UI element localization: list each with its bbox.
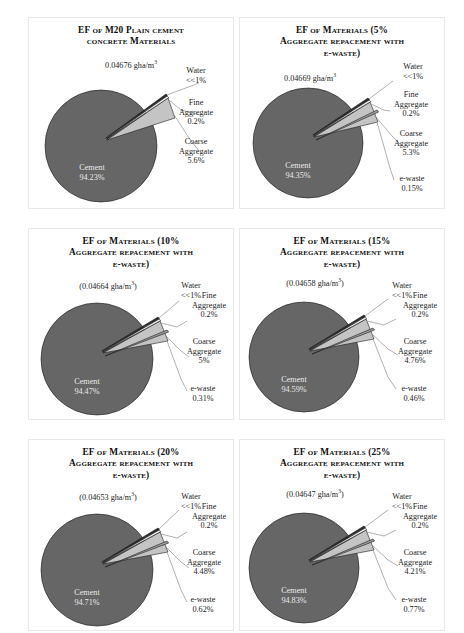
leader-line-water — [365, 510, 388, 527]
pie-slice-cement — [253, 88, 363, 198]
label-coarse-name2: Aggregate — [179, 147, 213, 156]
label-fine-aggregate: Fine Aggregate 0.2% — [382, 90, 440, 119]
leader-line-fine — [367, 530, 396, 536]
label-coarse-aggregate: Coarse Aggregate 5.6% — [165, 137, 227, 166]
label-ewaste: e-waste 0.15% — [382, 174, 442, 193]
label-fine-name2: Aggregate — [192, 301, 226, 310]
label-ewaste-name: e-waste — [190, 384, 215, 393]
pie-label-cement-name: Cement — [281, 375, 307, 384]
label-coarse-value: 4.48% — [193, 567, 214, 576]
label-fine-aggregate: Fine Aggregate 0.2% — [185, 502, 233, 531]
label-fine-value: 0.2% — [402, 109, 419, 118]
label-coarse-name2: Aggregate — [187, 558, 221, 567]
label-coarse-name2: Aggregate — [394, 139, 428, 148]
label-coarse-name: Coarse — [404, 548, 427, 557]
pie-label-cement-value: 94.23% — [79, 173, 104, 182]
leader-line-water — [365, 299, 388, 316]
label-coarse-aggregate: Coarse Aggregate 5% — [175, 337, 233, 366]
label-fine-value: 0.2% — [411, 521, 428, 530]
label-water: Water <<1% — [171, 66, 221, 85]
leader-line-water — [159, 510, 179, 529]
label-coarse-name2: Aggregate — [398, 347, 432, 356]
label-fine-name: Fine — [202, 502, 217, 511]
label-coarse-name: Coarse — [193, 548, 216, 557]
pie-slice-cement — [249, 513, 359, 623]
pie-slice-cement — [41, 514, 153, 626]
leader-line-fine — [161, 321, 187, 327]
label-fine-name2: Aggregate — [192, 512, 226, 521]
label-fine-value: 0.2% — [411, 310, 428, 319]
label-coarse-value: 5.3% — [402, 148, 419, 157]
pie-slice-cement — [41, 303, 153, 415]
pie-slice-cement — [249, 302, 359, 412]
label-water-name: Water — [186, 66, 205, 75]
label-water: Water <<1% — [388, 62, 438, 81]
label-water-value: <<1% — [403, 72, 423, 81]
pie-label-cement-name: Cement — [79, 163, 105, 172]
label-coarse-name: Coarse — [400, 129, 423, 138]
figure-panel-grid: EF of M20 Plain cement concrete Material… — [28, 17, 440, 627]
label-coarse-name: Coarse — [404, 337, 427, 346]
label-water-value: <<1% — [186, 76, 206, 85]
label-water-name: Water — [403, 62, 422, 71]
pie-label-cement-name: Cement — [74, 588, 100, 597]
label-fine-aggregate: Fine Aggregate 0.2% — [185, 291, 233, 320]
label-ewaste: e-waste 0.31% — [175, 384, 231, 403]
label-fine-value: 0.2% — [187, 117, 204, 126]
label-water-name: Water — [392, 281, 411, 290]
label-coarse-aggregate: Coarse Aggregate 5.3% — [380, 129, 442, 158]
label-fine-value: 0.2% — [200, 310, 217, 319]
pie-label-cement-value: 94.47% — [74, 387, 99, 396]
label-fine-name2: Aggregate — [179, 108, 213, 117]
label-coarse-aggregate: Coarse Aggregate 4.76% — [386, 337, 444, 366]
label-coarse-name: Coarse — [193, 337, 216, 346]
label-ewaste-value: 0.46% — [403, 394, 424, 403]
label-fine-name: Fine — [189, 98, 204, 107]
label-water-name: Water — [181, 492, 200, 501]
pie-label-cement-value: 94.35% — [285, 171, 310, 180]
label-coarse-aggregate: Coarse Aggregate 4.48% — [175, 548, 233, 577]
leader-line-water — [159, 301, 179, 318]
label-fine-aggregate: Fine Aggregate 0.2% — [396, 291, 444, 320]
label-fine-name2: Aggregate — [403, 301, 437, 310]
label-ewaste-value: 0.62% — [192, 605, 213, 614]
label-ewaste-name: e-waste — [401, 595, 426, 604]
pie-label-cement-name: Cement — [281, 586, 307, 595]
label-ewaste: e-waste 0.46% — [386, 384, 442, 403]
label-ewaste-value: 0.77% — [403, 605, 424, 614]
label-ewaste-value: 0.15% — [401, 184, 422, 193]
label-coarse-value: 5.6% — [187, 156, 204, 165]
label-ewaste-name: e-waste — [190, 595, 215, 604]
pie-label-cement-value: 94.59% — [281, 385, 306, 394]
label-coarse-value: 5% — [199, 356, 210, 365]
label-coarse-name2: Aggregate — [398, 558, 432, 567]
pie-label-cement-value: 94.71% — [74, 598, 99, 607]
label-fine-name: Fine — [413, 291, 428, 300]
label-fine-name: Fine — [202, 291, 217, 300]
label-coarse-name2: Aggregate — [187, 347, 221, 356]
pie-label-cement-name: Cement — [74, 377, 100, 386]
chart-panel-05: EF of Materials (5% Aggregate repacement… — [239, 17, 445, 209]
pie-label-cement-name: Cement — [285, 161, 311, 170]
chart-panel-plain: EF of M20 Plain cement concrete Material… — [28, 17, 234, 209]
chart-panel-25: EF of Materials (25% Aggregate repacemen… — [239, 439, 445, 631]
leader-line-fine — [367, 319, 396, 325]
label-ewaste: e-waste 0.62% — [175, 595, 231, 614]
label-coarse-name: Coarse — [185, 137, 208, 146]
label-fine-name: Fine — [413, 502, 428, 511]
chart-panel-15: EF of Materials (15% Aggregate repacemen… — [239, 228, 445, 420]
pie-label-cement-value: 94.83% — [281, 596, 306, 605]
label-fine-aggregate: Fine Aggregate 0.2% — [167, 98, 225, 127]
label-fine-value: 0.2% — [200, 521, 217, 530]
label-fine-name: Fine — [404, 90, 419, 99]
leader-line-fine — [161, 532, 187, 538]
label-ewaste: e-waste 0.77% — [386, 595, 442, 614]
label-fine-aggregate: Fine Aggregate 0.2% — [396, 502, 444, 531]
label-coarse-aggregate: Coarse Aggregate 4.21% — [386, 548, 444, 577]
label-fine-name2: Aggregate — [394, 100, 428, 109]
label-ewaste-value: 0.31% — [192, 394, 213, 403]
chart-panel-10: EF of Materials (10% Aggregate repacemen… — [28, 228, 234, 420]
label-water-name: Water — [392, 492, 411, 501]
pie-slice-cement — [45, 90, 157, 202]
label-fine-name2: Aggregate — [403, 512, 437, 521]
